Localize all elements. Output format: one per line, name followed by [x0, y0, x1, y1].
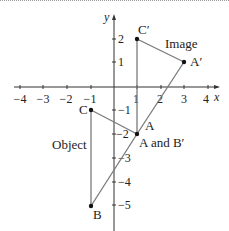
x-tick-label: −3 — [37, 92, 50, 106]
x-tick-label: −2 — [60, 92, 73, 106]
y-tick-label: −1 — [118, 103, 131, 117]
x-axis-label: x — [213, 90, 220, 104]
x-tick-label: 1 — [133, 92, 139, 106]
y-tick-label: 2 — [118, 32, 124, 46]
point-c-prime — [135, 37, 139, 41]
label-a-prime: A′ — [190, 54, 202, 69]
x-tick-label: 4 — [203, 92, 209, 106]
y-tick-label: −5 — [118, 198, 131, 212]
label-c: C — [79, 102, 88, 117]
label-a-and-b-prime: A and B′ — [139, 135, 185, 150]
x-tick-labels: −4 −3 −2 −1 1 2 3 4 x — [14, 90, 220, 106]
y-axis-arrow-icon — [112, 14, 116, 20]
coordinate-plane: −4 −3 −2 −1 1 2 3 4 x y 2 1 −1 −2 −3 −4 … — [0, 0, 229, 231]
x-tick-label: −4 — [14, 92, 27, 106]
label-a: A — [145, 118, 155, 133]
object-label: Object — [52, 137, 87, 152]
image-label: Image — [165, 36, 198, 51]
point-labels: C′ A′ C A A and B′ B — [79, 22, 202, 222]
label-c-prime: C′ — [138, 22, 150, 37]
label-b: B — [93, 207, 102, 222]
y-tick-label: −4 — [118, 175, 131, 189]
y-axis-label: y — [103, 10, 110, 24]
x-axis-arrow-icon — [214, 85, 220, 89]
x-tick-label: 3 — [181, 92, 187, 106]
point-c — [89, 108, 93, 112]
y-tick-label: 1 — [118, 55, 124, 69]
point-a-prime — [182, 60, 186, 64]
